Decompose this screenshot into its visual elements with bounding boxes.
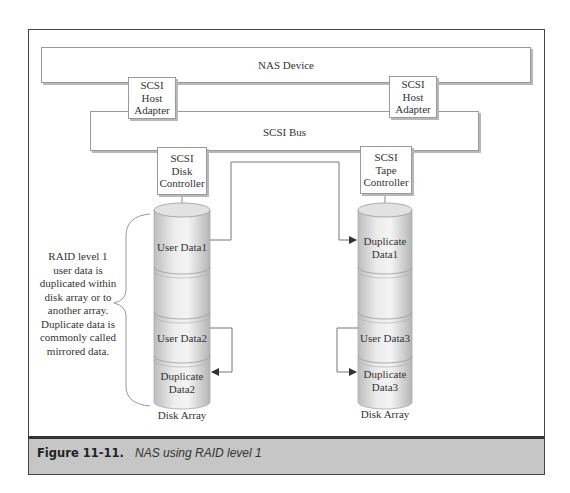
disk-controller-box: SCSI Disk Controller <box>157 147 207 195</box>
raid-note: RAID level 1 user data is duplicated wit… <box>38 250 118 358</box>
segment-duplicate-data2: Duplicate Data2 <box>156 370 208 396</box>
nas-device-box: NAS Device <box>41 47 531 83</box>
segment-duplicate-data1: Duplicate Data1 <box>360 235 410 261</box>
mirror-arrow-data1 <box>210 162 356 240</box>
scsi-bus-label: SCSI Bus <box>263 126 306 139</box>
right-disk-array-label: Disk Array <box>349 408 421 421</box>
host-adapter-right: SCSI Host Adapter <box>389 76 437 118</box>
figure-title: NAS using RAID level 1 <box>135 446 262 460</box>
segment-user-data3: User Data3 <box>354 332 416 345</box>
left-disk-array-label: Disk Array <box>146 409 218 422</box>
nas-device-label: NAS Device <box>258 59 314 72</box>
brace-icon <box>114 214 150 406</box>
figure-number: Figure 11-11. <box>37 446 124 460</box>
segment-duplicate-data3: Duplicate Data3 <box>360 368 410 394</box>
segment-user-data2: User Data2 <box>150 332 214 345</box>
segment-user-data1: User Data1 <box>150 241 214 254</box>
host-adapter-left: SCSI Host Adapter <box>128 77 176 119</box>
tape-controller-box: SCSI Tape Controller <box>360 146 412 194</box>
figure-caption: Figure 11-11. NAS using RAID level 1 <box>28 436 545 475</box>
